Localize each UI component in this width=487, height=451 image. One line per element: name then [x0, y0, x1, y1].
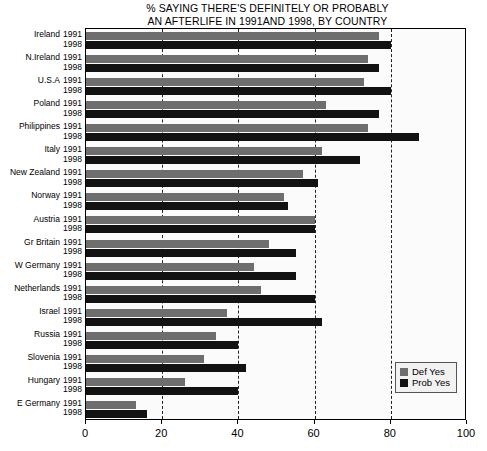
bar-prob-yes-6 — [86, 179, 318, 187]
x-tick-label-40: 40 — [231, 427, 243, 439]
bar-prob-yes-1 — [86, 64, 379, 72]
bar-group-ireland — [86, 29, 465, 52]
x-tick-mark-20 — [161, 420, 162, 424]
y-label-year-1998-5: 1998 — [63, 155, 82, 165]
y-label-country-16: E Germany — [17, 399, 60, 409]
chart-title: % SAYING THERE'S DEFINITELY OR PROBABLY … — [0, 2, 487, 28]
bar-group-w-germany — [86, 260, 465, 283]
bar-group-netherlands — [86, 283, 465, 306]
x-axis-ticks — [0, 420, 487, 426]
y-label-country-3: Poland — [34, 99, 60, 109]
bar-def-yes-13 — [86, 332, 216, 340]
y-label-year-1998-8: 1998 — [63, 224, 82, 234]
legend-item-def-yes: Def Yes — [400, 366, 450, 377]
bar-prob-yes-10 — [86, 272, 296, 280]
bar-rows — [86, 29, 465, 419]
bar-def-yes-12 — [86, 309, 227, 317]
bar-group-n-ireland — [86, 52, 465, 75]
bar-group-e-germany — [86, 398, 465, 420]
legend-label-0: Def Yes — [412, 366, 445, 377]
bar-def-yes-7 — [86, 193, 284, 201]
bar-prob-yes-3 — [86, 110, 379, 118]
y-label-country-7: Norway — [31, 191, 60, 201]
bar-prob-yes-15 — [86, 387, 238, 395]
x-axis-tick-labels: 020406080100 — [0, 427, 487, 441]
x-tick-mark-60 — [314, 420, 315, 424]
y-label-year-1998-14: 1998 — [63, 362, 82, 372]
y-label-country-15: Hungary — [28, 376, 60, 386]
y-label-year-1998-4: 1998 — [63, 132, 82, 142]
legend-item-prob-yes: Prob Yes — [400, 377, 450, 388]
bar-prob-yes-12 — [86, 318, 322, 326]
bar-prob-yes-9 — [86, 249, 296, 257]
bar-def-yes-16 — [86, 401, 136, 409]
bar-group-israel — [86, 306, 465, 329]
x-tick-label-20: 20 — [155, 427, 167, 439]
chart-title-line-2: AN AFTERLIFE IN 1991AND 1998, BY COUNTRY — [48, 15, 487, 28]
y-label-country-2: U.S.A — [38, 76, 60, 86]
bar-def-yes-4 — [86, 124, 368, 132]
x-tick-label-0: 0 — [82, 427, 88, 439]
x-tick-mark-100 — [466, 420, 467, 424]
y-label-country-4: Philippines — [19, 122, 60, 132]
y-axis-labels: Ireland19911998N.Ireland19911998U.S.A199… — [0, 28, 83, 420]
x-tick-mark-40 — [237, 420, 238, 424]
y-label-year-1998-15: 1998 — [63, 385, 82, 395]
bar-def-yes-14 — [86, 355, 204, 363]
y-label-year-1998-3: 1998 — [63, 109, 82, 119]
bar-def-yes-11 — [86, 286, 261, 294]
bar-prob-yes-14 — [86, 364, 246, 372]
y-label-year-1998-9: 1998 — [63, 247, 82, 257]
y-label-country-12: Israel — [39, 307, 60, 317]
x-tick-mark-0 — [85, 420, 86, 424]
x-tick-label-100: 100 — [457, 427, 475, 439]
y-label-country-9: Gr Britain — [24, 238, 60, 248]
y-label-country-0: Ireland — [34, 30, 60, 40]
y-label-year-1998-12: 1998 — [63, 316, 82, 326]
chart-title-line-1: % SAYING THERE'S DEFINITELY OR PROBABLY — [48, 2, 487, 15]
y-label-year-1998-0: 1998 — [63, 40, 82, 50]
bar-def-yes-5 — [86, 147, 322, 155]
y-label-country-1: N.Ireland — [26, 53, 61, 63]
bar-prob-yes-4 — [86, 133, 419, 141]
bar-group-poland — [86, 98, 465, 121]
bar-def-yes-6 — [86, 170, 303, 178]
bar-group-norway — [86, 190, 465, 213]
bar-def-yes-0 — [86, 32, 379, 40]
bar-def-yes-1 — [86, 55, 368, 63]
bar-group-russia — [86, 329, 465, 352]
bar-group-gr-britain — [86, 237, 465, 260]
bar-group-italy — [86, 144, 465, 167]
bar-def-yes-3 — [86, 101, 326, 109]
y-label-country-11: Netherlands — [14, 284, 60, 294]
bar-def-yes-10 — [86, 263, 254, 271]
bar-group-new-zealand — [86, 167, 465, 190]
bar-prob-yes-0 — [86, 41, 391, 49]
bar-group-philippines — [86, 121, 465, 144]
legend-swatch-icon-0 — [400, 368, 408, 376]
y-label-country-10: W Germany — [15, 261, 60, 271]
bar-prob-yes-13 — [86, 341, 238, 349]
y-label-country-13: Russia — [34, 330, 60, 340]
bar-def-yes-2 — [86, 78, 364, 86]
bar-def-yes-15 — [86, 378, 185, 386]
bar-def-yes-8 — [86, 216, 315, 224]
bar-def-yes-9 — [86, 240, 269, 248]
bar-group-u-s-a — [86, 75, 465, 98]
y-label-year-1998-7: 1998 — [63, 201, 82, 211]
y-label-year-1998-1: 1998 — [63, 63, 82, 73]
y-label-year-1998-2: 1998 — [63, 86, 82, 96]
y-label-country-14: Slovenia — [27, 353, 60, 363]
bar-group-austria — [86, 213, 465, 236]
y-label-year-1998-6: 1998 — [63, 178, 82, 188]
bar-prob-yes-16 — [86, 410, 147, 418]
bar-prob-yes-2 — [86, 87, 391, 95]
bar-prob-yes-11 — [86, 295, 315, 303]
x-tick-label-60: 60 — [307, 427, 319, 439]
legend-swatch-icon-1 — [400, 379, 408, 387]
x-tick-mark-80 — [390, 420, 391, 424]
y-label-country-6: New Zealand — [10, 168, 60, 178]
y-label-year-1998-10: 1998 — [63, 270, 82, 280]
y-label-year-1998-13: 1998 — [63, 339, 82, 349]
y-label-country-5: Italy — [44, 145, 60, 155]
